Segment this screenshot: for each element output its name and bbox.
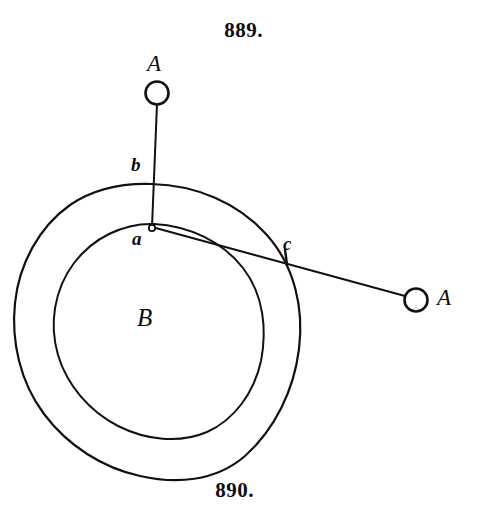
diagonal-cord	[152, 227, 405, 296]
label-point-a: a	[132, 229, 142, 248]
ball-top-circle	[146, 82, 169, 105]
vertical-cord	[152, 104, 157, 227]
pivot-vertex-a	[149, 225, 155, 231]
label-point-b: b	[131, 155, 141, 174]
ball-right-circle	[405, 289, 428, 312]
label-ball-top-a: A	[147, 52, 161, 75]
inner-circle	[54, 224, 264, 439]
figure-caption-top: 889.	[0, 18, 477, 43]
pendulum-diagram	[0, 0, 477, 509]
label-point-c: c	[283, 234, 291, 253]
label-body-b: B	[137, 305, 152, 330]
figure-caption-bottom: 890.	[0, 478, 477, 503]
label-ball-right-a: A	[437, 286, 451, 309]
